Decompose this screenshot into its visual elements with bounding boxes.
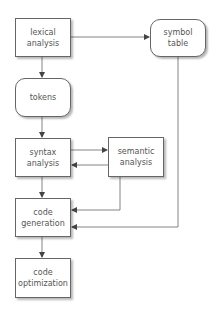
- node-tokens: tokens: [15, 78, 71, 117]
- node-code-generation: code generation: [15, 198, 71, 237]
- node-semantic-analysis: semantic analysis: [108, 137, 164, 177]
- edge-semantic-codegen: [72, 177, 120, 210]
- node-symbol-table: symbol table: [150, 19, 206, 57]
- node-lexical-analysis: lexical analysis: [15, 18, 71, 57]
- node-code-optimization: code optimization: [15, 258, 71, 298]
- node-syntax-analysis: syntax analysis: [15, 138, 71, 177]
